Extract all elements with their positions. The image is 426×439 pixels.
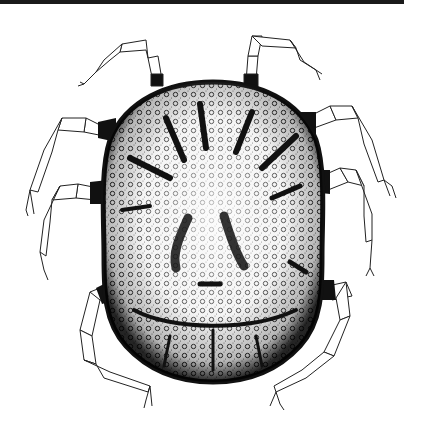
leg-left-1 bbox=[78, 40, 163, 86]
leg-right-1 bbox=[244, 36, 322, 88]
leg-left-3 bbox=[40, 180, 108, 280]
mite-illustration: Stippled line drawing of a mite with an … bbox=[0, 0, 426, 439]
